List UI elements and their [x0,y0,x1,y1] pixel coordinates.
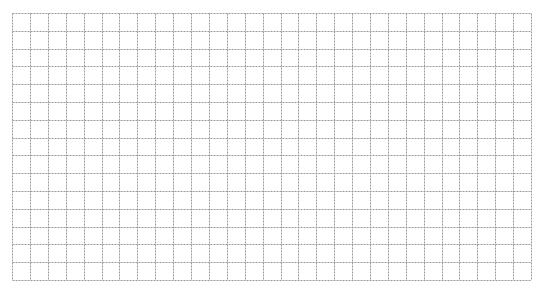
dashed-grid [12,13,534,282]
